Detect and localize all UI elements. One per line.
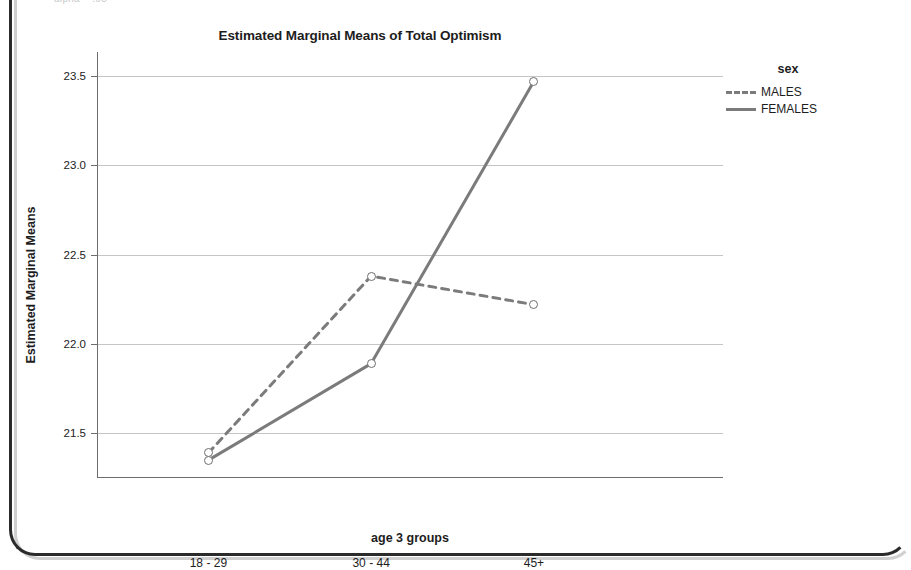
y-tick-label: 22.5 xyxy=(64,249,86,261)
x-tick-label: 45+ xyxy=(524,556,544,570)
x-tick-label: 18 - 29 xyxy=(190,556,227,570)
y-tick-label: 23.0 xyxy=(64,159,86,171)
series-line-females xyxy=(208,81,534,460)
legend-label: FEMALES xyxy=(761,102,817,116)
plot-area: 21.522.022.523.023.5 18 - 2930 - 4445+ xyxy=(97,58,723,478)
data-point xyxy=(367,272,376,281)
legend: sex MALESFEMALES xyxy=(726,62,844,119)
legend-label: MALES xyxy=(761,85,802,99)
legend-title: sex xyxy=(732,62,844,76)
x-axis-title: age 3 groups xyxy=(97,531,723,545)
y-tick-label: 21.5 xyxy=(64,427,86,439)
y-tick-label: 22.0 xyxy=(64,338,86,350)
data-point xyxy=(204,456,213,465)
series-lines xyxy=(97,58,723,478)
legend-swatch-dashed xyxy=(726,91,756,94)
y-axis-title: Estimated Marginal Means xyxy=(24,207,38,364)
legend-entry-females[interactable]: FEMALES xyxy=(726,102,844,116)
legend-entry-males[interactable]: MALES xyxy=(726,85,844,99)
legend-entries: MALESFEMALES xyxy=(726,85,844,116)
data-point xyxy=(367,359,376,368)
legend-swatch-solid xyxy=(726,108,756,111)
clipped-top-text: alpha = .05 xyxy=(54,0,107,4)
x-tick-label: 30 - 44 xyxy=(352,556,389,570)
y-tick-label: 23.5 xyxy=(64,70,86,82)
plot-inner: 21.522.022.523.023.5 18 - 2930 - 4445+ xyxy=(97,58,723,478)
chart-title: Estimated Marginal Means of Total Optimi… xyxy=(0,28,720,43)
